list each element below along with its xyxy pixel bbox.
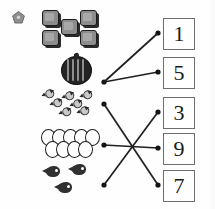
watermelon — [61, 56, 92, 85]
pentagon-icon — [12, 11, 25, 24]
number-box-value: 1 — [174, 23, 185, 45]
candy — [57, 105, 73, 117]
watermelon-stripe — [72, 59, 74, 81]
object-group-candies — [40, 89, 100, 119]
object-group-fish — [42, 164, 102, 200]
square-screen — [61, 19, 78, 35]
fish — [42, 166, 62, 178]
object-group-watermelon — [55, 53, 97, 85]
worksheet-canvas: 1 5 3 9 7 — [0, 0, 215, 209]
watermelon-stripe — [82, 59, 84, 81]
connector-dot[interactable] — [155, 109, 160, 114]
square-screen — [42, 10, 59, 26]
number-box-3[interactable]: 3 — [163, 97, 195, 129]
number-box-value: 5 — [174, 62, 185, 84]
square-screen — [80, 30, 97, 46]
connector-dot[interactable] — [101, 101, 106, 106]
object-group-squares — [42, 10, 98, 48]
connector-line[interactable] — [104, 72, 158, 82]
object-group-eggs — [41, 129, 99, 159]
connector-line[interactable] — [104, 145, 158, 148]
number-box-5[interactable]: 7 — [163, 170, 195, 202]
connector-line[interactable] — [104, 112, 158, 185]
number-box-value: 7 — [174, 175, 185, 197]
number-box-1[interactable]: 1 — [163, 18, 195, 50]
connector-dot[interactable] — [155, 30, 160, 35]
connector-dot[interactable] — [155, 69, 160, 74]
fish — [54, 182, 74, 194]
connector-dot[interactable] — [155, 145, 160, 150]
number-box-2[interactable]: 5 — [163, 57, 195, 89]
fish — [68, 164, 88, 176]
number-box-value: 9 — [174, 138, 185, 160]
number-box-4[interactable]: 9 — [163, 133, 195, 165]
connector-line[interactable] — [104, 104, 158, 185]
connector-dot[interactable] — [101, 79, 106, 84]
square-screen — [42, 30, 59, 46]
watermelon-stem — [73, 52, 79, 58]
connector-dot[interactable] — [101, 182, 106, 187]
connector-line[interactable] — [104, 33, 158, 82]
connector-dot[interactable] — [155, 182, 160, 187]
egg — [78, 141, 93, 158]
candy — [40, 87, 56, 99]
watermelon-stripe — [77, 59, 79, 81]
number-box-value: 3 — [174, 102, 185, 124]
right-edge-strip — [210, 0, 215, 209]
connector-dot[interactable] — [101, 142, 106, 147]
square-screen — [80, 10, 97, 26]
watermelon-stripe — [67, 59, 69, 81]
